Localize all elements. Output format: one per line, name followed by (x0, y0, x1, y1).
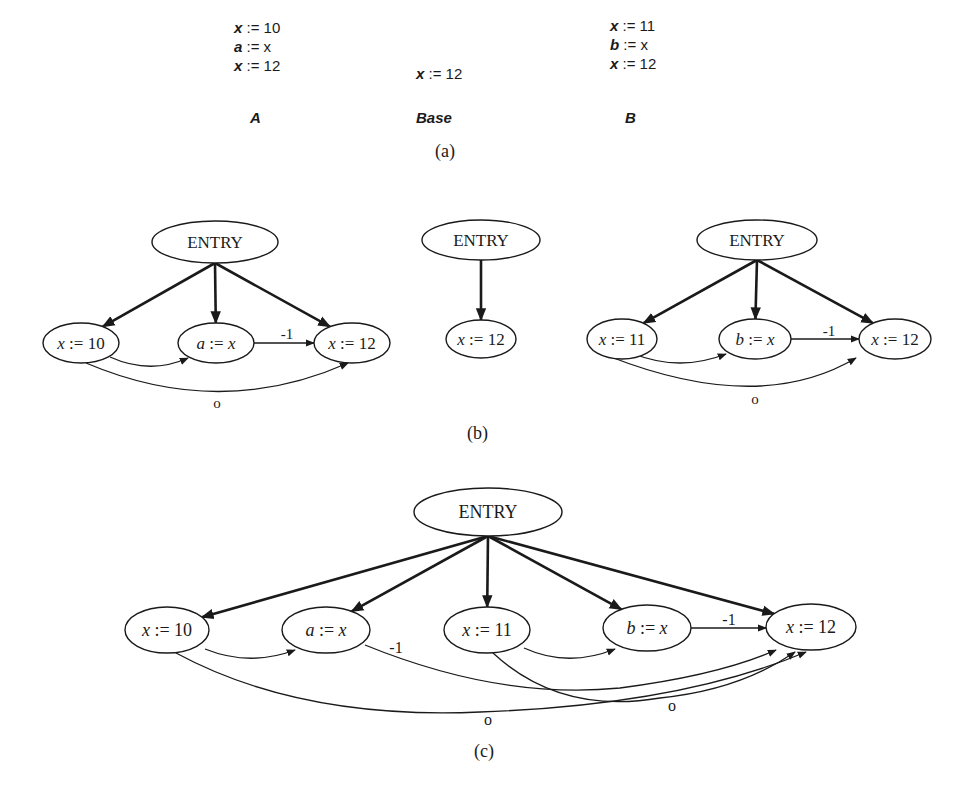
control-dependence-edge (487, 536, 488, 607)
node-label: a := x (197, 334, 236, 353)
dependence-graphs-diagram: -1oENTRYx := 10a := xx := 12 ENTRYx := 1… (0, 0, 968, 787)
control-dependence-edge (488, 536, 621, 609)
control-dependence-edge (488, 536, 774, 614)
node-label: x := 11 (598, 330, 646, 349)
control-dependence-edge (215, 263, 330, 327)
control-dependence-edge (757, 260, 873, 323)
graph-merged: -1-1ooENTRYx := 10a := xx := 11b := xx :… (125, 488, 856, 728)
edge-label: -1 (281, 326, 294, 342)
graph-b: -1oENTRYx := 11b := xx := 12 (587, 220, 931, 407)
flow-dependence-edge (524, 648, 615, 658)
flow-dependence-edge (365, 645, 776, 690)
node-label: x := 12 (327, 334, 375, 353)
graph-base: ENTRYx := 12 (422, 220, 540, 358)
control-dependence-edge (755, 260, 757, 319)
edge-label: o (668, 697, 676, 714)
edge-label: o (751, 391, 759, 407)
flow-dependence-edge (110, 357, 188, 366)
node-label: x := 12 (870, 330, 918, 349)
node-label: x := 12 (456, 330, 504, 349)
edge-label: -1 (389, 639, 402, 656)
edge-label: o (484, 711, 492, 728)
caption-c: (c) (474, 741, 494, 762)
flow-dependence-edge (493, 652, 795, 702)
edge-label: -1 (823, 323, 836, 339)
node-label: ENTRY (458, 502, 517, 522)
flow-dependence-edge (611, 357, 856, 386)
node-label: a := x (305, 620, 346, 640)
node-label: x := 11 (461, 620, 512, 640)
flow-dependence-edge (634, 354, 726, 363)
node-label: ENTRY (729, 231, 785, 250)
control-dependence-edge (644, 260, 757, 323)
node-label: x := 10 (141, 620, 192, 640)
control-dependence-edge (103, 263, 215, 327)
node-label: x := 10 (56, 334, 104, 353)
flow-dependence-edge (86, 363, 348, 392)
control-dependence-edge (202, 536, 488, 617)
caption-b: (b) (467, 423, 488, 444)
node-label: ENTRY (453, 231, 509, 250)
control-dependence-edge (215, 263, 216, 323)
edge-label: -1 (722, 611, 735, 628)
control-dependence-edge (352, 536, 488, 611)
node-label: x := 12 (785, 617, 836, 637)
node-label: b := x (736, 330, 775, 349)
node-label: ENTRY (187, 233, 243, 252)
node-label: b := x (626, 618, 667, 638)
graph-a: -1oENTRYx := 10a := xx := 12 (43, 221, 390, 411)
edge-label: o (213, 395, 221, 411)
flow-dependence-edge (205, 649, 295, 658)
